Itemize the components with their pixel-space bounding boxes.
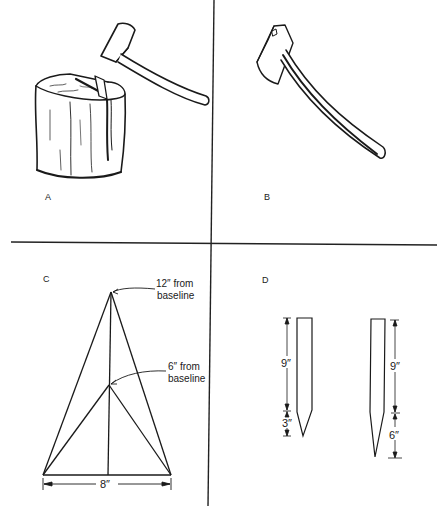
panel-d: D 9″ 3″ <box>262 275 402 458</box>
stake1-point-length: 3″ <box>282 417 292 429</box>
horizontal-divider <box>11 242 437 245</box>
triangle-diagram <box>43 292 171 475</box>
diagram-canvas: A B C <box>0 0 442 506</box>
label-base-8in: 8″ <box>100 478 110 490</box>
hand-axe-icon <box>101 23 209 105</box>
stake2-point-length: 6″ <box>389 429 399 441</box>
stake2-shaft-length: 9″ <box>390 360 400 372</box>
vertical-divider <box>208 0 214 506</box>
stake1-shaft-length: 9″ <box>281 357 291 369</box>
log-icon <box>35 74 125 178</box>
panel-c: C 12″ from baseline 6″ from baseline 8″ <box>43 274 206 490</box>
panel-label-d: D <box>262 275 269 285</box>
label-6in-line2: baseline <box>168 373 206 384</box>
panel-label-c: C <box>43 274 50 284</box>
axe-icon <box>257 25 385 158</box>
stake-short-point <box>297 318 312 436</box>
panel-label-a: A <box>45 192 51 202</box>
stake-long-point <box>370 319 385 457</box>
panel-b: B <box>257 25 385 202</box>
label-6in-line1: 6″ from <box>168 361 200 372</box>
label-12in-line2: baseline <box>157 290 195 301</box>
panel-label-b: B <box>264 192 270 202</box>
leader-arrow-12 <box>113 288 155 292</box>
panel-a: A <box>35 23 208 202</box>
label-12in-line1: 12″ from <box>156 278 193 289</box>
